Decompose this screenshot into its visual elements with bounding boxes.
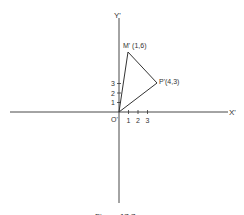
figure-caption: Figure 17.7 xyxy=(95,212,136,215)
x-tick-label-2: 2 xyxy=(136,117,140,124)
coordinate-diagram: Y' X' O' 1 2 3 1 2 3 M' (1,6) P'(4,3) Fi… xyxy=(0,0,244,215)
y-tick-label-3: 3 xyxy=(111,80,115,87)
y-tick-label-2: 2 xyxy=(111,90,115,97)
x-tick-label-1: 1 xyxy=(127,117,131,124)
x-axis-label: X' xyxy=(229,108,236,117)
origin-label: O' xyxy=(111,116,118,123)
x-tick-label-3: 3 xyxy=(146,117,150,124)
point-p-label: P'(4,3) xyxy=(159,78,179,86)
triangle-omp xyxy=(119,52,157,112)
point-m-label: M' (1,6) xyxy=(123,42,147,50)
y-axis-label: Y' xyxy=(114,11,121,20)
y-tick-label-1: 1 xyxy=(111,99,115,106)
